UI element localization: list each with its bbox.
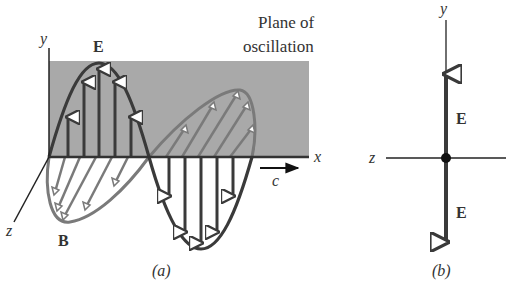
b-field-label-a: B (58, 232, 69, 249)
e-field-label-up: E (456, 110, 467, 127)
caption-a: (a) (152, 262, 171, 280)
plane-label: Plane of (258, 13, 315, 32)
plane-label-2: oscillation (243, 37, 314, 56)
e-field-label-a: E (93, 38, 104, 55)
speed-label: c (272, 172, 279, 189)
panel-a: y x z E B c Plane of oscillation (a) (5, 13, 321, 280)
em-wave-diagram: y x z E B c Plane of oscillation (a) y z… (0, 0, 514, 298)
y-axis-label-a: y (38, 30, 48, 48)
y-axis-label-b: y (438, 0, 448, 18)
plane-of-oscillation (49, 61, 309, 157)
panel-b: y z E E (b) (368, 0, 506, 280)
z-axis-label-a: z (5, 222, 13, 239)
z-axis-label-b: z (368, 149, 376, 166)
caption-b: (b) (432, 262, 451, 280)
x-axis-label-a: x (313, 148, 321, 165)
e-field-label-down: E (456, 204, 467, 221)
origin-dot (441, 153, 451, 163)
z-axis-a (14, 157, 49, 222)
